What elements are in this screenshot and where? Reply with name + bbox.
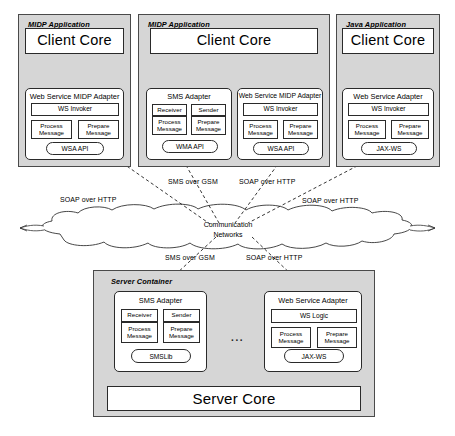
api-pill-jaxws-client: JAX-WS [361,142,417,155]
link-label-soap-mid: SOAP over HTTP [239,178,296,185]
adapter-title: SMS Adapter [115,296,206,305]
sms-adapter-box-client: SMS Adapter Receiver Sender Process Mess… [146,88,232,160]
api-pill-wma: WMA API [162,140,218,153]
process-message-label: Process Message [32,123,71,136]
sender-label: Sender [172,312,192,319]
link-label-soap-right: SOAP over HTTP [302,197,359,204]
link-label-soap-left: SOAP over HTTP [60,196,117,203]
client-core-box-3: Client Core [342,28,434,54]
ws-invoker-box-1: WS Invoker [31,103,119,116]
ws-adapter-box-server: Web Service Adapter WS Logic Process Mes… [264,291,362,372]
api-pill-wsa-1: WSA API [46,142,104,155]
prepare-message-box-server-ws: Prepare Message [317,327,357,348]
api-label: JAX-WS [302,353,327,360]
adapter-title: Web Service Adapter [265,296,361,305]
prepare-message-box-2: Prepare Message [283,120,318,139]
api-label: WMA API [176,143,204,150]
process-message-label: Process Message [349,123,385,136]
prepare-message-label: Prepare Message [164,326,199,339]
prepare-message-label: Prepare Message [192,119,225,132]
ws-invoker-box-2: WS Invoker [243,103,318,116]
adapter-title: Web Service MIDP Adapter [238,92,322,99]
sender-box-server: Sender [163,309,200,322]
architecture-diagram: MIDP Application Client Core Web Service… [0,0,455,436]
process-message-box-1: Process Message [31,120,72,139]
sender-box-client: Sender [191,104,226,116]
process-message-label: Process Message [272,331,310,344]
api-label: JAX-WS [377,145,402,152]
receiver-label: Receiver [127,312,151,319]
prepare-message-box-client-sms: Prepare Message [191,116,226,135]
process-message-box-2: Process Message [243,120,278,139]
client-core-box-2: Client Core [150,28,318,54]
prepare-message-label: Prepare Message [318,331,356,344]
cloud-line-1: Communication [204,221,253,228]
server-core-label: Server Core [192,391,275,407]
link-wma-api [183,160,219,223]
api-label: WSA API [268,145,295,152]
receiver-box-client: Receiver [152,104,187,116]
adapters-ellipsis: ... [231,332,244,343]
prepare-message-box-server-sms: Prepare Message [163,322,200,343]
process-message-label: Process Message [244,123,277,136]
client-core-label: Client Core [37,33,112,48]
server-core-box: Server Core [107,386,361,411]
prepare-message-label: Prepare Message [392,123,428,136]
process-message-label: Process Message [122,326,157,339]
communication-cloud-label: Communication Networks [178,220,278,240]
api-label: WSA API [62,145,89,152]
ws-invoker-label: WS Invoker [58,106,92,113]
link-wsa-api-2 [235,160,281,223]
ws-logic-box: WS Logic [271,309,357,323]
api-pill-wsa-2: WSA API [253,142,309,155]
link-label-sms-gsm-lower: SMS over GSM [165,254,215,261]
process-message-box-3: Process Message [348,120,386,139]
api-label: SMSLib [149,353,172,360]
prepare-message-box-3: Prepare Message [391,120,429,139]
api-pill-smslib: SMSLib [131,349,191,363]
adapter-title: Web Service MIDP Adapter [26,92,123,101]
process-message-box-client-sms: Process Message [152,116,187,135]
adapter-title: Web Service Adapter [343,92,433,101]
cloud-line-2: Networks [213,231,242,238]
ws-logic-label: WS Logic [300,313,328,320]
process-message-box-server-ws: Process Message [271,327,311,348]
prepare-message-label: Prepare Message [79,123,118,136]
ws-adapter-box-java: Web Service Adapter WS Invoker Process M… [342,88,434,160]
api-pill-jaxws-server: JAX-WS [284,349,344,363]
ws-invoker-label: WS Invoker [263,106,297,113]
ws-midp-adapter-box-1: Web Service MIDP Adapter WS Invoker Proc… [25,88,124,160]
server-container-title: Server Container [111,277,172,286]
client-core-label: Client Core [197,33,272,48]
prepare-message-label: Prepare Message [284,123,317,136]
prepare-message-box-1: Prepare Message [78,120,119,139]
link-label-soap-lower: SOAP over HTTP [246,254,303,261]
adapter-title: SMS Adapter [147,92,231,101]
client-core-box-1: Client Core [25,28,124,54]
sms-adapter-box-server: SMS Adapter Receiver Sender Process Mess… [114,291,207,372]
receiver-box-server: Receiver [121,309,158,322]
process-message-label: Process Message [153,119,186,132]
ws-invoker-box-3: WS Invoker [348,103,429,116]
link-label-sms-gsm-upper: SMS over GSM [168,178,218,185]
client-core-label: Client Core [351,33,426,48]
process-message-box-server-sms: Process Message [121,322,158,343]
sender-label: Sender [199,107,219,114]
ws-invoker-label: WS Invoker [371,106,405,113]
ws-midp-adapter-box-2: Web Service MIDP Adapter WS Invoker Proc… [237,88,323,160]
receiver-label: Receiver [157,107,181,114]
